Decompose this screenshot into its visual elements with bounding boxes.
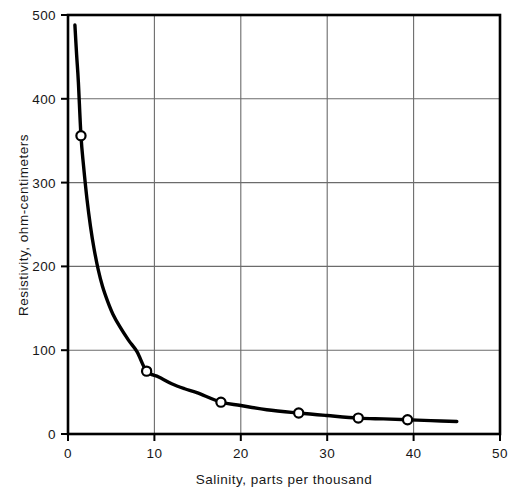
data-curve-path — [75, 25, 457, 421]
y-tick-label: 200 — [32, 259, 56, 274]
plot-frame — [68, 15, 500, 434]
y-tick-label: 100 — [32, 343, 56, 358]
figure-container: 01020304050 0100200300400500 Salinity, p… — [0, 0, 516, 500]
data-point-marker — [142, 367, 151, 376]
y-tick-label: 500 — [32, 8, 56, 23]
x-tick-label: 50 — [492, 446, 508, 461]
y-tick-label: 0 — [48, 427, 56, 442]
x-axis-title: Salinity, parts per thousand — [196, 472, 373, 487]
data-point-marker — [403, 415, 412, 424]
data-point-marker — [294, 408, 303, 417]
x-tick-label: 20 — [233, 446, 249, 461]
data-point-markers — [76, 131, 412, 424]
tick-labels: 01020304050 — [64, 446, 508, 461]
y-axis-title: Resistivity, ohm-centimeters — [16, 134, 31, 316]
tick-labels-y: 0100200300400500 — [32, 8, 56, 442]
x-tick-label: 0 — [64, 446, 72, 461]
y-tick-label: 300 — [32, 176, 56, 191]
data-curve — [75, 25, 457, 421]
x-tick-label: 30 — [319, 446, 335, 461]
grid-lines — [68, 15, 500, 434]
resistivity-salinity-chart: 01020304050 0100200300400500 Salinity, p… — [0, 0, 516, 500]
x-tick-label: 40 — [406, 446, 422, 461]
data-point-marker — [76, 131, 85, 140]
data-point-marker — [216, 398, 225, 407]
x-tick-label: 10 — [146, 446, 162, 461]
figure-caption — [0, 487, 516, 500]
axis-ticks — [61, 15, 500, 441]
data-point-marker — [354, 413, 363, 422]
y-tick-label: 400 — [32, 92, 56, 107]
